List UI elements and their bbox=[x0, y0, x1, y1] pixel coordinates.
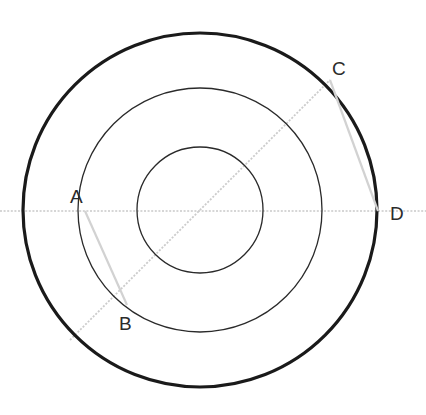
point-label-a: A bbox=[70, 186, 83, 207]
figure-background bbox=[0, 0, 426, 415]
geometry-figure: A B C D bbox=[0, 0, 426, 415]
point-label-d: D bbox=[390, 203, 404, 224]
point-label-b: B bbox=[119, 313, 132, 334]
geometry-canvas: A B C D bbox=[0, 0, 426, 415]
point-label-c: C bbox=[332, 58, 346, 79]
